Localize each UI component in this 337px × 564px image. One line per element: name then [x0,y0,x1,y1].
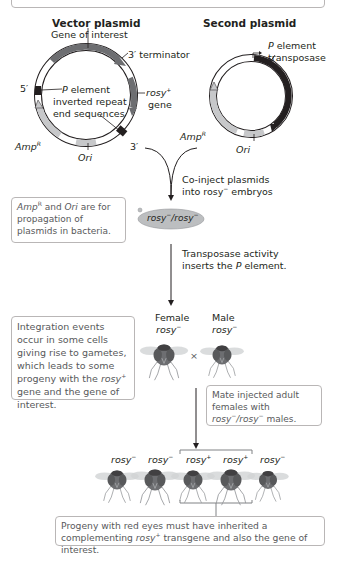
transposase-activity-label-1: Transposase activity [182,248,279,259]
progeny-label: rosy− [260,454,285,465]
female-label: Female [155,312,189,323]
red-eye-bracket-bottom [180,500,252,503]
three-prime-label: 3′ [130,141,138,152]
progeny-label: rosy− [111,454,136,465]
amp-r-label: AmpR [15,141,41,152]
five-prime-label: 5′ [20,83,28,94]
ori-segment-2 [244,132,264,134]
transposase-label-2: transposase [268,52,326,63]
rosy-plus-label: rosy+ [146,87,171,98]
female-genotype: rosy− [156,324,181,335]
progeny-label: rosy+ [223,454,248,465]
vector-plasmid-title: Vector plasmid [52,18,140,29]
second-plasmid-ring [210,51,289,141]
cross-symbol: × [190,350,198,361]
rosy-gene-label: gene [148,99,172,110]
diagram-graphics [0,0,337,564]
terminator-label: 3′ terminator [128,49,190,60]
amp-ori-note: AmpR and Ori are for propagation of plas… [11,197,126,243]
ori-label: Ori [78,152,92,163]
p-element-label-2: inverted repeat [53,96,127,107]
mate-note: Mate injected adult females with rosy−/r… [206,385,322,426]
male-fly [200,346,244,378]
integration-note: Integration events occur in some cells g… [11,316,135,400]
p-element-label-1: P element [62,84,110,95]
progeny-fly [207,470,255,506]
second-plasmid-title: Second plasmid [203,18,296,29]
progeny-label: rosy− [148,454,173,465]
ori-segment [76,142,96,143]
transposase-activity-label-2: inserts the P element. [182,260,287,271]
female-fly [140,345,188,381]
coinject-label-2: into rosy− embryos [182,186,273,197]
embryo-genotype-label: rosy−/rosy− [147,213,199,224]
male-genotype: rosy− [212,324,237,335]
p-element-label-3: end sequences [53,108,125,119]
transposase-label-1: P element [268,40,316,51]
male-label: Male [212,312,235,323]
amp-r-label-2: AmpR [180,131,206,142]
progeny-note: Progeny with red eyes must have inherite… [55,516,325,546]
progeny-fly [247,471,288,502]
p-end-5prime [35,86,41,95]
progeny-label: rosy+ [186,454,211,465]
gene-of-interest-label: Gene of interest [51,29,128,40]
ori-label-2: Ori [236,144,250,155]
coinject-label-1: Co-inject plasmids [182,174,269,185]
